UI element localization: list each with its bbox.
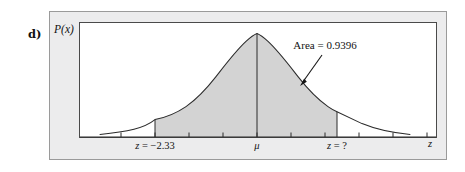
left-boundary-label: z = −2.33 <box>135 140 175 151</box>
distribution-curve-graphic <box>0 0 465 172</box>
right-boundary-label: z = ? <box>327 140 347 151</box>
mean-label: μ <box>254 140 259 151</box>
area-annotation-label: Area = 0.9396 <box>293 39 356 51</box>
normal-distribution-figure: d) P(x) z <box>0 0 465 172</box>
annotation-arrow-icon <box>300 55 322 86</box>
